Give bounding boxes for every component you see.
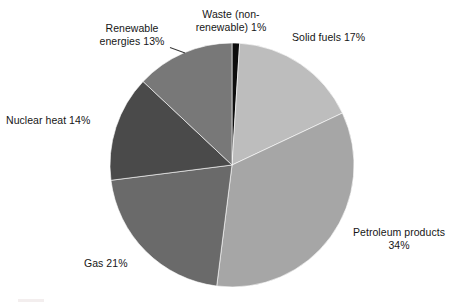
pie-label-gas: Gas 21% bbox=[84, 257, 164, 270]
pie-slice-group bbox=[110, 43, 354, 287]
pie-chart-figure: Waste (non- renewable) 1% Solid fuels 17… bbox=[0, 0, 454, 307]
pie-chart-plot-area bbox=[0, 0, 454, 307]
pie-label-waste: Waste (non- renewable) 1% bbox=[173, 8, 289, 33]
pie-label-renewable-energies: Renewable energies 13% bbox=[82, 22, 182, 47]
pie-label-solid-fuels: Solid fuels 17% bbox=[292, 31, 412, 44]
scan-artifact bbox=[18, 299, 44, 302]
pie-label-petroleum-products: Petroleum products 34% bbox=[345, 226, 453, 251]
pie-chart-svg bbox=[0, 0, 454, 307]
pie-label-nuclear-heat: Nuclear heat 14% bbox=[6, 114, 114, 127]
